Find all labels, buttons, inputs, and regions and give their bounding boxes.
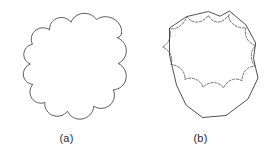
figure-container: (a) (b): [0, 0, 267, 159]
panel-a-caption: (a): [0, 130, 133, 146]
blob-outline-dashed: [163, 15, 256, 89]
figure-panel-a: (a): [0, 0, 133, 159]
convex-hull-polygon: [170, 11, 259, 118]
figure-panel-b: (b): [134, 0, 267, 159]
shape-a-canvas: [0, 0, 133, 130]
panel-b-caption: (b): [134, 130, 267, 146]
blob-outline-solid: [23, 13, 126, 119]
shape-b-canvas: [134, 0, 267, 130]
